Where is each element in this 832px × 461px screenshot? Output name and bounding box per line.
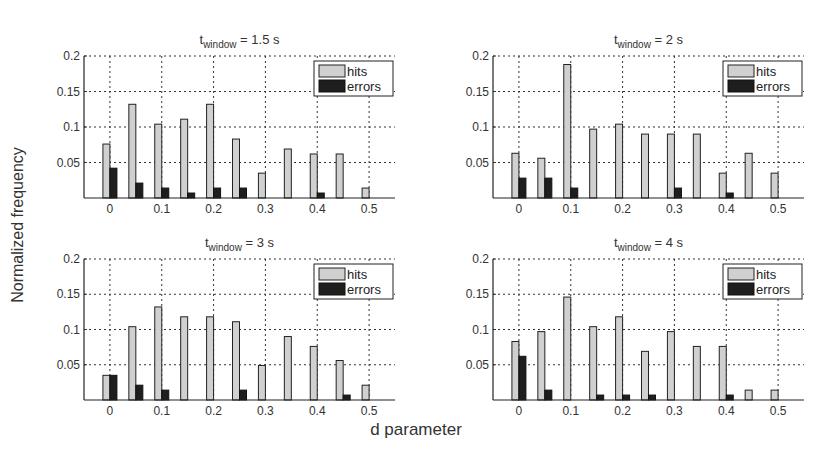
x-tick-label: 0 (107, 404, 114, 418)
y-tick-label: 0.2 (63, 252, 80, 266)
y-tick-label: 0.05 (57, 156, 81, 170)
y-tick-label: 0.2 (63, 49, 80, 63)
bar-hits (564, 65, 571, 198)
bar-hits (719, 173, 726, 198)
x-tick-label: 0.2 (614, 202, 631, 216)
bar-hits (362, 385, 369, 400)
bar-hits (258, 365, 265, 400)
x-tick-label: 0.4 (718, 404, 735, 418)
bar-hits (538, 158, 545, 198)
bar-errors (136, 183, 143, 198)
legend: hitserrors (314, 264, 393, 299)
bar-errors (110, 375, 117, 400)
legend-label-errors: errors (756, 282, 790, 297)
bar-hits (745, 153, 752, 198)
legend-label-errors: errors (347, 79, 381, 94)
bar-errors (317, 193, 324, 198)
bar-hits (129, 104, 136, 198)
bar-hits (616, 317, 623, 400)
subplot-title: twindow = 1.5 s (200, 32, 280, 50)
bar-hits (745, 390, 752, 400)
bar-hits (771, 390, 778, 400)
y-tick-label: 0.1 (472, 120, 489, 134)
legend-swatch-errors (319, 283, 345, 295)
bar-hits (642, 351, 649, 400)
subplot-3: twindow = 3 s0.050.10.150.200.10.20.30.4… (57, 235, 395, 418)
bar-hits (590, 327, 597, 400)
bar-errors (519, 178, 526, 198)
bar-hits (181, 317, 188, 400)
x-tick-label: 0.5 (361, 202, 378, 216)
legend-label-hits: hits (756, 64, 777, 79)
subplot-title: twindow = 2 s (614, 32, 684, 50)
bar-hits (310, 154, 317, 198)
bar-hits (258, 173, 265, 198)
legend-swatch-hits (319, 65, 345, 77)
legend-label-hits: hits (347, 267, 368, 282)
legend: hitserrors (723, 264, 802, 299)
y-tick-label: 0.15 (57, 85, 81, 99)
y-tick-label: 0.1 (63, 120, 80, 134)
bar-errors (110, 168, 117, 198)
bar-hits (512, 153, 519, 198)
y-axis-label: Normalized frequency (8, 215, 28, 235)
bar-hits (719, 346, 726, 400)
bar-errors (240, 188, 247, 198)
x-tick-label: 0.3 (666, 404, 683, 418)
bar-errors (545, 390, 552, 400)
subplot-4: twindow = 4 s0.050.10.150.200.10.20.30.4… (466, 235, 804, 418)
bar-hits (284, 149, 291, 198)
x-tick-label: 0.1 (562, 202, 579, 216)
y-axis-label-text: Normalized frequency (9, 147, 27, 303)
bar-hits (616, 124, 623, 198)
x-axis-label: d parameter (0, 420, 832, 440)
bar-hits (129, 327, 136, 400)
y-tick-label: 0.1 (63, 323, 80, 337)
bar-hits (693, 134, 700, 198)
legend-label-hits: hits (756, 267, 777, 282)
bar-hits (336, 154, 343, 198)
legend-label-errors: errors (347, 282, 381, 297)
legend: hitserrors (723, 61, 802, 96)
x-tick-label: 0.1 (562, 404, 579, 418)
bar-hits (693, 346, 700, 400)
x-tick-label: 0.4 (309, 404, 326, 418)
bar-errors (726, 395, 733, 400)
bar-hits (590, 129, 597, 198)
y-tick-label: 0.05 (57, 358, 81, 372)
x-tick-label: 0.5 (770, 404, 787, 418)
bar-errors (343, 395, 350, 400)
x-tick-label: 0 (107, 202, 114, 216)
bar-hits (642, 134, 649, 198)
bar-hits (103, 375, 110, 400)
subplot-2: twindow = 2 s0.050.10.150.200.10.20.30.4… (466, 32, 804, 216)
bar-errors (188, 193, 195, 198)
legend-swatch-hits (319, 268, 345, 280)
bar-errors (214, 188, 221, 198)
legend-swatch-hits (728, 268, 754, 280)
x-tick-label: 0.2 (205, 202, 222, 216)
bar-errors (597, 395, 604, 400)
bar-errors (162, 188, 169, 198)
legend-swatch-hits (728, 65, 754, 77)
legend: hitserrors (314, 61, 393, 96)
bar-hits (233, 139, 240, 198)
x-tick-label: 0.5 (361, 404, 378, 418)
x-tick-label: 0.4 (309, 202, 326, 216)
bar-errors (649, 395, 656, 400)
bar-hits (207, 317, 214, 400)
bar-errors (726, 193, 733, 198)
legend-swatch-errors (728, 283, 754, 295)
bar-errors (240, 390, 247, 400)
x-tick-label: 0 (516, 404, 523, 418)
bar-hits (512, 341, 519, 400)
y-tick-label: 0.05 (466, 156, 490, 170)
x-tick-label: 0.3 (257, 202, 274, 216)
x-tick-label: 0.1 (153, 202, 170, 216)
bar-errors (623, 395, 630, 400)
y-tick-label: 0.2 (472, 49, 489, 63)
legend-swatch-errors (728, 80, 754, 92)
subplot-title: twindow = 4 s (614, 235, 684, 253)
bar-hits (310, 346, 317, 400)
x-tick-label: 0.5 (770, 202, 787, 216)
